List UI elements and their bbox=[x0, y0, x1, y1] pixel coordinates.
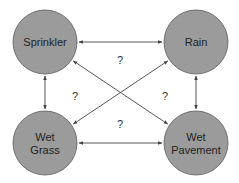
node-label: Wet bbox=[35, 131, 54, 143]
question-mark-label: ? bbox=[162, 90, 168, 102]
node-label: Sprinkler bbox=[23, 36, 67, 48]
node-label: Pavement bbox=[171, 144, 221, 156]
node-wet-pavement: WetPavement bbox=[164, 111, 228, 175]
question-mark-label: ? bbox=[72, 90, 78, 102]
node-label: Wet bbox=[186, 131, 205, 143]
node-rain: Rain bbox=[164, 10, 228, 74]
node-label: Grass bbox=[30, 144, 60, 156]
node-wet-grass: WetGrass bbox=[13, 111, 77, 175]
question-mark-label: ? bbox=[117, 118, 123, 130]
question-mark-label: ? bbox=[117, 54, 123, 66]
node-sprinkler: Sprinkler bbox=[13, 10, 77, 74]
bayesian-network-diagram: SprinklerRainWetGrassWetPavement ???? bbox=[0, 0, 239, 183]
node-label: Rain bbox=[185, 36, 208, 48]
